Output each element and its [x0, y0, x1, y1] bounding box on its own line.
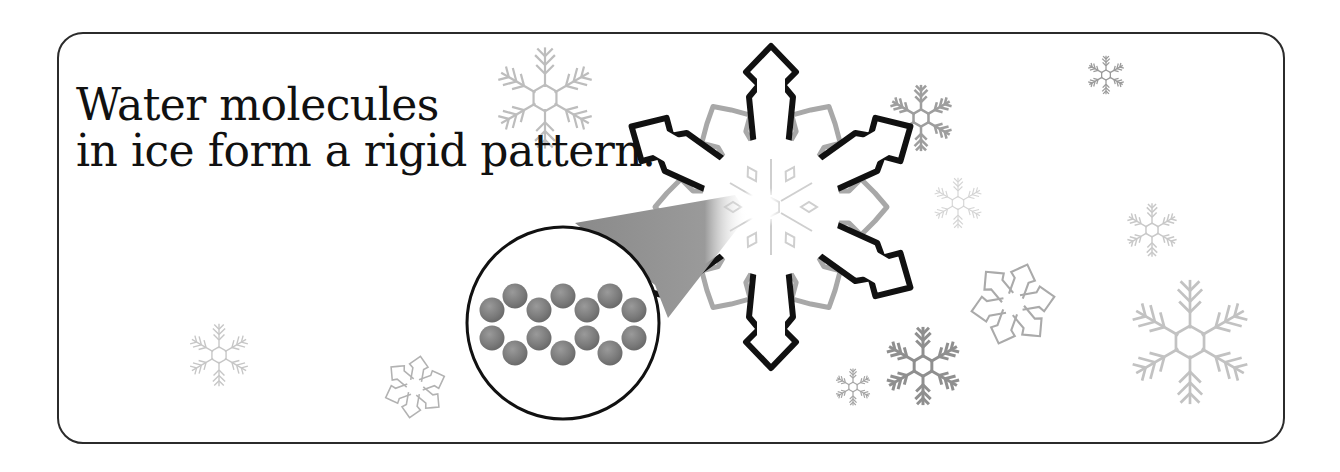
background-snowflake-bottom-mid — [885, 327, 960, 405]
caption-line-1: Water molecules — [76, 82, 656, 128]
background-blocky-snowflake-left — [378, 351, 451, 423]
caption-line-2: in ice form a rigid pattern. — [76, 128, 656, 174]
caption-text: Water molecules in ice form a rigid patt… — [76, 82, 656, 174]
ice-illustration — [0, 0, 1340, 472]
background-snowflake-right-faint — [1126, 203, 1177, 256]
magnifier-circle — [467, 227, 659, 419]
background-snowflake-top-right-small — [1087, 56, 1124, 95]
background-snowflake-large-right — [1130, 280, 1250, 404]
background-snowflake-faint — [934, 178, 983, 229]
background-blocky-snowflake-right — [959, 250, 1068, 358]
background-snowflake-bottom-left — [189, 324, 249, 387]
background-snowflake-bottom-tiny — [835, 369, 870, 406]
